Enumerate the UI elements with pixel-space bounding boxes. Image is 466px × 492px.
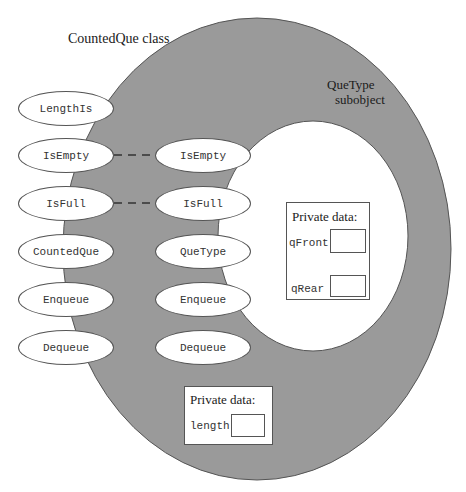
quetype-method-dequeue: Dequeue [155, 330, 251, 365]
field-qfront-value [330, 229, 366, 253]
quetype-private-data-title: Private data: [292, 209, 357, 225]
countedque-private-data-title: Private data: [190, 392, 255, 408]
method-enqueue: Enqueue [18, 282, 114, 317]
field-qfront-label: qFront [289, 237, 329, 249]
quetype-method-isfull: IsFull [155, 186, 251, 221]
field-length-value [231, 414, 265, 437]
que-type-label: QueType [327, 77, 374, 93]
method-isfull: IsFull [18, 186, 114, 221]
counted-que-class-label: CountedQue class [68, 31, 169, 47]
quetype-method-isempty: IsEmpty [155, 138, 251, 173]
quetype-private-data-box: Private data: qFront qRear [286, 202, 370, 300]
method-countedque: CountedQue [18, 234, 114, 269]
counted-que-diagram: CountedQue class QueType subobject Lengt… [0, 0, 466, 492]
quetype-method-quetype: QueType [155, 234, 251, 269]
quetype-method-enqueue: Enqueue [155, 282, 251, 317]
method-dequeue: Dequeue [18, 330, 114, 365]
method-isempty: IsEmpty [18, 138, 114, 173]
field-qrear-label: qRear [291, 283, 324, 295]
method-lengthis: LengthIs [18, 91, 114, 126]
field-length-label: length [190, 420, 230, 432]
countedque-private-data-box: Private data: length [184, 386, 273, 445]
field-qrear-value [330, 275, 366, 297]
subobject-label: subobject [335, 92, 385, 108]
